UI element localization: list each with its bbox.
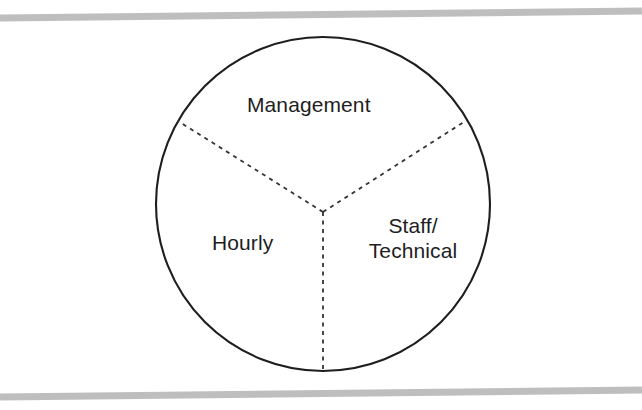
slice-label-management: Management — [247, 92, 371, 117]
slice-label-hourly: Hourly — [212, 230, 273, 255]
pie-diagram-graphic — [0, 0, 642, 410]
slice-label-staff-technical: Staff/ Technical — [364, 213, 462, 263]
figure-page: Management Hourly Staff/ Technical — [0, 0, 642, 410]
slice-label-staff-line-2: Technical — [364, 238, 462, 263]
slice-label-staff-line-1: Staff/ — [364, 213, 462, 238]
pie-outline-circle — [156, 37, 490, 371]
